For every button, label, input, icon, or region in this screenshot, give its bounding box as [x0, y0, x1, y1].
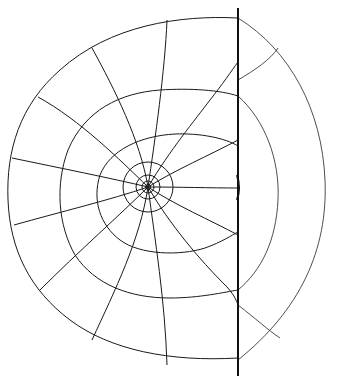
field-line [40, 187, 148, 290]
field-diagram [0, 0, 342, 386]
image-ring-large [238, 96, 278, 290]
image-outer-arc [238, 18, 325, 360]
field-line [148, 187, 167, 365]
ring-mid [97, 134, 238, 253]
field-line [148, 62, 238, 187]
field-line [92, 48, 148, 187]
image-field-line [238, 48, 278, 80]
image-field-line [238, 305, 280, 338]
field-line [148, 140, 238, 187]
field-line [148, 187, 238, 235]
field-lines [12, 20, 238, 365]
field-line [148, 187, 238, 188]
field-line [92, 187, 148, 340]
field-line [38, 97, 148, 187]
